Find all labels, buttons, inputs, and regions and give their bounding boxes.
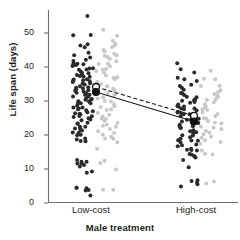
data-point: [112, 104, 116, 108]
data-point: [80, 105, 84, 109]
data-point: [182, 88, 186, 92]
data-point: [98, 161, 102, 165]
data-point: [71, 130, 75, 134]
data-point: [180, 119, 184, 123]
data-point: [115, 53, 119, 57]
data-point: [78, 44, 82, 48]
data-point: [82, 75, 86, 79]
data-point: [195, 108, 199, 112]
data-point: [103, 99, 107, 103]
data-point: [185, 95, 189, 99]
data-point: [189, 139, 193, 143]
data-point: [198, 142, 202, 146]
data-point: [176, 144, 180, 148]
data-point: [73, 111, 77, 115]
data-point: [79, 133, 83, 137]
data-point: [83, 83, 87, 87]
data-point: [105, 108, 109, 112]
data-point: [104, 67, 108, 71]
data-point: [190, 179, 194, 183]
data-point: [205, 98, 209, 102]
data-point: [88, 101, 92, 105]
data-point: [115, 121, 119, 125]
data-point: [85, 67, 89, 71]
y-axis-title: Life span (days): [7, 40, 18, 120]
data-point: [71, 105, 75, 109]
data-point: [187, 165, 191, 169]
filled-mean-low-cost: [93, 89, 100, 96]
data-point: [107, 113, 111, 117]
data-point: [71, 64, 75, 68]
data-point: [202, 132, 206, 136]
data-point: [204, 129, 208, 133]
data-point: [182, 107, 186, 111]
data-point: [219, 122, 223, 126]
data-point: [193, 100, 197, 104]
data-point: [206, 119, 210, 123]
x-tick-label-low-cost: Low-cost: [46, 204, 136, 215]
data-point: [203, 152, 207, 156]
data-point: [115, 140, 119, 144]
data-point: [95, 147, 99, 151]
data-point: [205, 108, 209, 112]
data-point: [75, 137, 79, 141]
data-point: [110, 45, 114, 49]
data-point: [216, 90, 220, 94]
data-point: [85, 171, 89, 175]
data-point: [101, 124, 105, 128]
data-point: [200, 111, 204, 115]
data-point: [189, 83, 193, 87]
data-point: [88, 56, 92, 60]
data-point: [72, 115, 76, 119]
data-point: [189, 148, 193, 152]
data-point: [101, 188, 105, 192]
data-point: [194, 142, 198, 146]
data-point: [105, 123, 109, 127]
y-tick-label: 10: [8, 164, 34, 173]
data-point: [75, 158, 79, 162]
data-point: [103, 49, 107, 53]
data-point: [73, 127, 77, 131]
data-point: [84, 139, 88, 143]
data-point: [103, 159, 107, 163]
data-point: [114, 167, 118, 171]
data-point: [80, 118, 84, 122]
data-point: [112, 93, 116, 97]
data-point: [94, 69, 98, 73]
data-point: [112, 131, 116, 135]
data-point: [88, 118, 92, 122]
data-point: [71, 33, 75, 37]
data-point: [213, 114, 217, 118]
data-point: [212, 126, 216, 130]
data-point: [109, 99, 113, 103]
data-point: [109, 108, 113, 112]
y-tick-label: 50: [8, 28, 34, 37]
y-tick-label: 0: [8, 198, 34, 207]
data-point: [101, 28, 105, 32]
data-point: [113, 89, 117, 93]
data-point: [181, 158, 185, 162]
data-point: [108, 127, 112, 131]
data-point: [175, 61, 179, 65]
data-point: [111, 137, 115, 141]
data-point: [108, 57, 112, 61]
data-point: [180, 133, 184, 137]
data-point: [108, 64, 112, 68]
data-point: [78, 164, 82, 168]
data-point: [199, 125, 203, 129]
data-point: [176, 76, 180, 80]
data-point: [83, 98, 87, 102]
data-point: [192, 70, 196, 74]
data-point: [185, 148, 189, 152]
data-point: [88, 81, 92, 85]
data-point: [115, 34, 119, 38]
data-point: [202, 77, 206, 81]
data-point: [71, 95, 75, 99]
data-point: [105, 84, 109, 88]
data-point: [208, 131, 212, 135]
data-point: [72, 53, 76, 57]
data-point: [90, 169, 94, 173]
data-point: [219, 127, 223, 131]
data-point: [83, 45, 87, 49]
data-point: [113, 77, 117, 81]
